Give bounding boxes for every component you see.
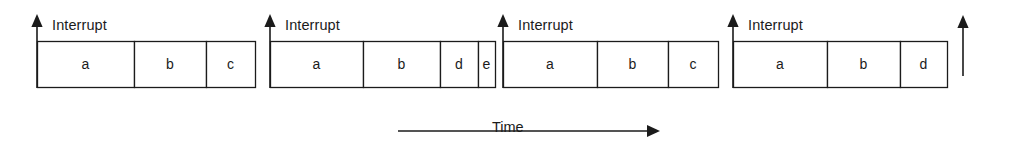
- process-box: [207, 42, 256, 88]
- group-4: [734, 42, 948, 88]
- group-3: [504, 42, 719, 88]
- process-box: [504, 42, 598, 88]
- group-1: [38, 42, 256, 88]
- process-box: [38, 42, 135, 88]
- group-2: [271, 42, 496, 88]
- process-box: [734, 42, 828, 88]
- process-box: [828, 42, 901, 88]
- process-box: [479, 42, 496, 88]
- process-box: [135, 42, 207, 88]
- interrupt-timeline-diagram: [0, 0, 1009, 150]
- process-box: [901, 42, 948, 88]
- process-box: [441, 42, 479, 88]
- process-box: [271, 42, 364, 88]
- process-box: [598, 42, 669, 88]
- process-box: [669, 42, 719, 88]
- process-box: [364, 42, 441, 88]
